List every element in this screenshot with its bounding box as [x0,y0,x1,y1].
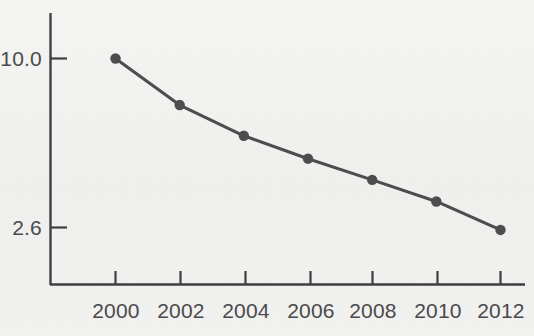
x-axis-ticks [116,271,501,285]
y-tick-label-2-6: 2.6 [0,217,42,238]
y-axis-ticks [50,59,67,228]
data-point-2012 [495,225,505,235]
series-line [116,59,501,230]
series-markers [110,53,505,235]
data-point-2002 [174,100,184,110]
data-point-2010 [431,196,441,206]
x-tick-label-2012: 2012 [456,300,534,321]
data-point-2000 [110,53,120,63]
chart-plot-area [0,0,534,336]
y-tick-label-10-0: 10.0 [0,48,42,69]
data-point-2004 [239,131,249,141]
data-point-2008 [367,175,377,185]
line-chart: 10.0 2.6 2000 2002 2004 2006 2008 2010 2… [0,0,534,336]
data-point-2006 [303,153,313,163]
